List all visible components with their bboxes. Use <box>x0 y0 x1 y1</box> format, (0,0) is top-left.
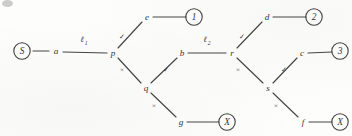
node-d: d <box>265 12 270 22</box>
node-c-label: c <box>300 48 304 58</box>
node-r-label: r <box>230 48 234 58</box>
mark-cross-s-f: × <box>274 102 278 110</box>
mark-check-q-b: ✓ <box>163 66 169 74</box>
node-f: f <box>302 117 306 127</box>
edge-labels-layer: ℓ1ℓ2 <box>80 35 211 46</box>
edge-label-ell-1: ℓ1 <box>80 35 88 46</box>
mark-check-s-c: ✓ <box>281 66 287 74</box>
edge-c-t3 <box>308 52 332 53</box>
edges-layer <box>33 17 332 122</box>
node-d-label: d <box>265 12 270 22</box>
node-a: a <box>54 46 59 56</box>
node-p: p <box>110 48 116 58</box>
terminal-3: 3 <box>332 43 348 59</box>
node-r: r <box>230 48 234 58</box>
node-q: q <box>144 83 149 93</box>
node-f-label: f <box>302 117 306 127</box>
node-c: c <box>300 48 304 58</box>
edge-label-ell-2: ℓ2 <box>203 35 211 46</box>
node-s: S <box>14 43 30 59</box>
node-e-label: e <box>145 12 149 22</box>
nodes-layer: Sapeqgbrdscf123XX <box>14 9 348 130</box>
edge-label-ell-1-base: ℓ <box>80 35 84 44</box>
edge-label-ell-2-subscript: 2 <box>208 40 211 46</box>
terminal-x-2-label: X <box>336 117 344 127</box>
graph-canvas: Sapeqgbrdscf123XX ✓×✓×✓×✓× ℓ1ℓ2 <box>0 0 352 136</box>
edge-label-ell-1-subscript: 1 <box>85 40 88 46</box>
edge-a-p <box>63 52 107 53</box>
node-s-lower: s <box>266 83 270 93</box>
node-g: g <box>179 117 184 127</box>
node-g-label: g <box>179 117 184 127</box>
graph-diagram: Sapeqgbrdscf123XX ✓×✓×✓×✓× ℓ1ℓ2 <box>0 0 352 136</box>
terminal-x-2: X <box>332 114 348 130</box>
terminal-1: 1 <box>186 9 202 25</box>
node-a-label: a <box>54 46 59 56</box>
node-s-lower-label: s <box>266 83 270 93</box>
terminal-3-label: 3 <box>337 46 343 56</box>
node-e: e <box>145 12 149 22</box>
edge-r-s <box>237 58 263 83</box>
terminal-1-label: 1 <box>192 12 197 22</box>
marks-layer: ✓×✓×✓×✓× <box>119 33 287 110</box>
terminal-2: 2 <box>306 9 322 25</box>
terminal-x-1-label: X <box>223 117 231 127</box>
node-s-label: S <box>20 46 25 56</box>
mark-check-r-d: ✓ <box>239 33 245 41</box>
node-b: b <box>180 48 185 58</box>
edge-label-ell-2-base: ℓ <box>203 35 207 44</box>
node-q-label: q <box>144 83 149 93</box>
mark-cross-r-s: × <box>236 66 240 74</box>
terminal-2-label: 2 <box>312 12 317 22</box>
node-b-label: b <box>180 48 185 58</box>
mark-cross-q-g: × <box>152 102 156 110</box>
mark-cross-p-q: × <box>120 66 124 74</box>
node-p-label: p <box>110 48 116 58</box>
mark-check-p-e: ✓ <box>119 33 125 41</box>
terminal-x-1: X <box>219 114 235 130</box>
